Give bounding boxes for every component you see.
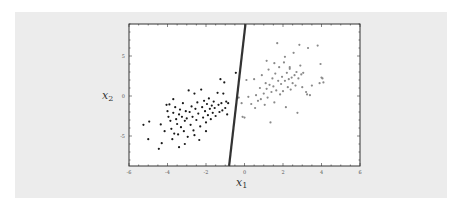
data-point — [175, 118, 177, 120]
data-point — [189, 111, 191, 113]
data-point — [261, 74, 263, 76]
y-tick-label: 5 — [122, 53, 125, 59]
data-point — [172, 112, 174, 114]
data-point — [167, 116, 169, 118]
data-point — [281, 76, 283, 78]
data-point — [173, 133, 175, 135]
data-point — [247, 96, 249, 98]
data-point — [193, 93, 195, 95]
data-point — [288, 78, 290, 80]
x-tick-label: -6 — [127, 169, 132, 175]
data-point — [255, 94, 257, 96]
data-point — [290, 89, 292, 91]
data-point — [299, 65, 301, 67]
data-point — [311, 85, 313, 87]
scatter-chart: -6-4-20246-505 x1 x2 — [0, 0, 458, 208]
data-point — [206, 103, 208, 105]
data-point — [199, 125, 201, 127]
data-point — [307, 47, 309, 49]
data-point — [200, 89, 202, 91]
data-point — [161, 142, 163, 144]
data-point — [292, 52, 294, 54]
data-point — [197, 113, 199, 115]
data-point — [204, 110, 206, 112]
data-point — [195, 119, 197, 121]
data-point — [194, 108, 196, 110]
data-point — [263, 93, 265, 95]
data-point — [286, 72, 288, 74]
data-point — [284, 80, 286, 82]
data-point — [235, 72, 237, 74]
data-point — [269, 121, 271, 123]
data-point — [184, 120, 186, 122]
data-point — [322, 81, 324, 83]
data-point — [267, 97, 269, 99]
x-tick-label: 4 — [320, 169, 323, 175]
data-point — [158, 148, 160, 150]
data-point — [208, 97, 210, 99]
data-point — [219, 78, 221, 80]
data-point — [217, 104, 219, 106]
data-point — [198, 139, 200, 141]
data-point — [294, 85, 296, 87]
data-point — [285, 106, 287, 108]
data-point — [267, 69, 269, 71]
data-point — [224, 107, 226, 109]
data-point — [297, 77, 299, 79]
x-tick-label: 2 — [281, 169, 284, 175]
data-point — [301, 86, 303, 88]
y-tick-label: 0 — [122, 93, 125, 99]
x-tick-label: -2 — [204, 169, 209, 175]
data-point — [260, 98, 262, 100]
data-point — [273, 101, 275, 103]
data-point — [306, 93, 308, 95]
data-point — [259, 87, 261, 89]
data-point — [223, 81, 225, 83]
y-axis-label: x2 — [102, 89, 113, 103]
data-point — [264, 104, 266, 106]
data-point — [221, 109, 223, 111]
data-point — [148, 121, 150, 123]
data-point — [277, 80, 279, 82]
data-point — [268, 84, 270, 86]
data-point — [181, 116, 183, 118]
data-point — [254, 107, 256, 109]
data-point — [174, 106, 176, 108]
data-point — [178, 113, 180, 115]
data-point — [193, 134, 195, 136]
data-point — [187, 136, 189, 138]
data-point — [176, 123, 178, 125]
data-point — [179, 109, 181, 111]
data-point — [216, 92, 218, 94]
data-point — [280, 83, 282, 85]
data-point — [291, 77, 293, 79]
data-point — [241, 116, 243, 118]
data-point — [172, 98, 174, 100]
data-point — [243, 117, 245, 119]
data-point — [222, 93, 224, 95]
data-point — [266, 60, 268, 62]
plot-area — [129, 24, 360, 166]
data-point — [253, 78, 255, 80]
data-point — [191, 116, 193, 118]
data-point — [192, 129, 194, 131]
data-point — [196, 101, 198, 103]
data-point — [190, 124, 192, 126]
data-point — [293, 74, 295, 76]
data-point — [274, 73, 276, 75]
data-point — [201, 106, 203, 108]
data-point — [178, 146, 180, 148]
data-point — [317, 45, 319, 47]
data-point — [275, 89, 277, 91]
data-point — [282, 90, 284, 92]
x-tick-label: 0 — [243, 169, 246, 175]
data-point — [205, 130, 207, 132]
data-point — [266, 88, 268, 90]
data-point — [205, 121, 207, 123]
data-point — [142, 124, 144, 126]
data-point — [213, 101, 215, 103]
data-point — [292, 82, 294, 84]
data-point — [218, 111, 220, 113]
data-point — [168, 103, 170, 105]
data-point — [186, 117, 188, 119]
